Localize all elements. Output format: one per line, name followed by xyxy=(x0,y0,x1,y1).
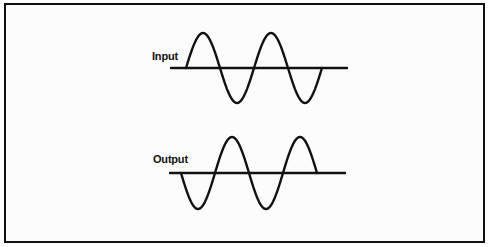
waveform-diagram xyxy=(0,0,488,247)
